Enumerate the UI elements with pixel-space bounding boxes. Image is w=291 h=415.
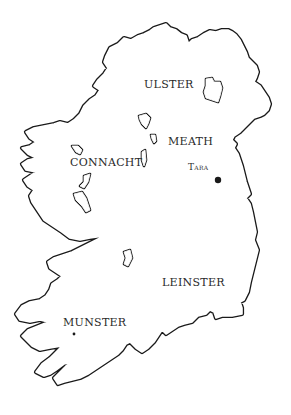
- ireland-map: [0, 0, 291, 415]
- place-label-tara: Tara: [188, 163, 208, 172]
- province-label-munster: MUNSTER: [63, 317, 126, 328]
- small-dot: [73, 333, 76, 336]
- province-label-meath: MEATH: [168, 136, 213, 147]
- province-label-leinster: LEINSTER: [162, 277, 225, 288]
- province-label-ulster: ULSTER: [144, 79, 194, 90]
- province-label-connacht: CONNACHT: [70, 157, 142, 168]
- tara-marker: [215, 177, 221, 183]
- ireland-coastline: [16, 24, 270, 384]
- tara-dot: [215, 177, 221, 183]
